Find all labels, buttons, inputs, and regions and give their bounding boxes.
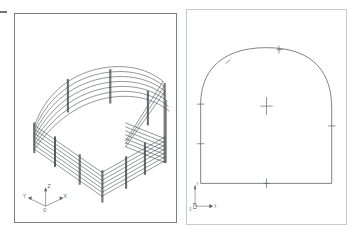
viewport-2d-front[interactable]: Y X 0 xyxy=(186,9,347,225)
ucs-label-x: X xyxy=(63,194,67,199)
ucs-label-origin-2d: 0 xyxy=(189,206,191,212)
ucs-label-y-2d: Y xyxy=(196,182,198,188)
ucs-label-z: Z xyxy=(48,184,51,189)
ucs-arrow-x-2d xyxy=(209,204,213,208)
grip-bottom-midpoint xyxy=(263,178,269,188)
ucs-axis-y xyxy=(29,198,46,206)
scan-artifact xyxy=(0,11,7,13)
isometric-wireframe-drawing: Z X Y 0 xyxy=(15,14,176,222)
viewport-3d-isometric[interactable]: Z X Y 0 xyxy=(14,13,177,223)
grip-arc-left xyxy=(226,60,231,64)
ucs-label-y: Y xyxy=(23,194,27,199)
ucs-label-origin-3d: 0 xyxy=(43,208,46,213)
ucs-icon-2d: Y X 0 xyxy=(189,182,216,213)
ucs-label-x-2d: X xyxy=(214,203,216,209)
cad-canvas: Z X Y 0 xyxy=(0,0,357,235)
arch-profile-drawing: Y X 0 xyxy=(187,10,346,224)
center-cross-marker xyxy=(260,97,272,115)
arch-outline[interactable] xyxy=(201,48,332,184)
ucs-axis-x xyxy=(46,198,63,206)
ucs-icon-3d: Z X Y 0 xyxy=(23,184,67,213)
grip-marker-group xyxy=(197,46,336,189)
isoline-group-left-wall xyxy=(34,125,102,196)
grip-arc-apex xyxy=(276,46,282,54)
